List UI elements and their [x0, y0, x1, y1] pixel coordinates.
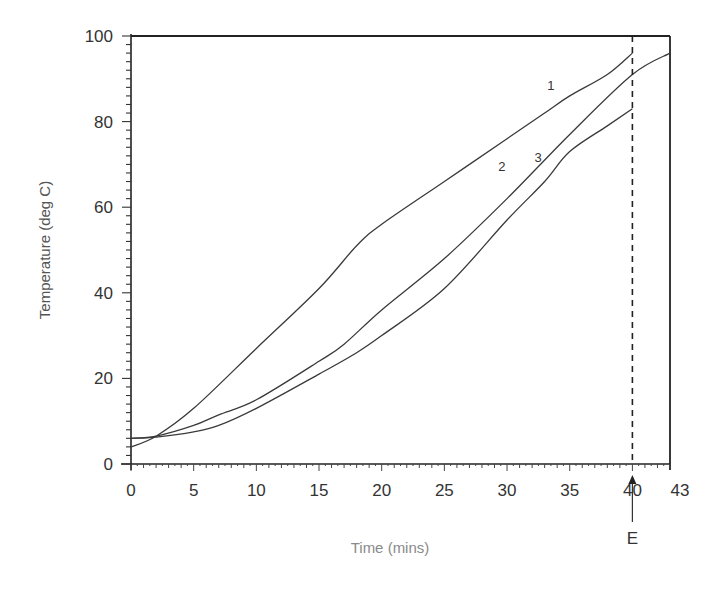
y-tick-label: 80 — [94, 113, 113, 132]
x-tick-label: 25 — [435, 481, 454, 500]
x-axis-tick-labels: 051015202530354043 — [126, 481, 689, 500]
x-tick-label: 15 — [310, 481, 329, 500]
x-tick-label: 43 — [671, 481, 690, 500]
y-tick-label: 20 — [94, 369, 113, 388]
y-tick-label: 100 — [85, 27, 113, 46]
arrow-up-icon — [628, 475, 636, 484]
x-tick-label: 0 — [126, 481, 135, 500]
series-2-line — [131, 53, 670, 438]
series-3-line — [131, 109, 632, 439]
series-3-label: 3 — [535, 150, 542, 165]
y-tick-label: 0 — [104, 455, 113, 474]
y-axis-tick-labels: 020406080100 — [85, 27, 113, 474]
plot-frame — [121, 34, 670, 470]
series-2-label: 2 — [498, 159, 505, 174]
y-tick-label: 40 — [94, 284, 113, 303]
y-axis-ticks — [122, 36, 131, 464]
y-axis-title: Temperature (deg C) — [36, 181, 53, 319]
x-axis-title: Time (mins) — [351, 539, 430, 556]
x-tick-label: 10 — [247, 481, 266, 500]
end-marker-label: E — [627, 529, 638, 548]
temperature-time-chart: 020406080100 051015202530354043 Temperat… — [0, 0, 728, 607]
x-tick-label: 30 — [498, 481, 517, 500]
x-tick-label: 35 — [560, 481, 579, 500]
series-1-line — [131, 53, 632, 447]
x-tick-label: 20 — [372, 481, 391, 500]
series-lines — [131, 53, 670, 447]
y-tick-label: 60 — [94, 198, 113, 217]
x-axis-ticks — [131, 464, 670, 471]
x-tick-label: 5 — [189, 481, 198, 500]
series-1-label: 1 — [547, 78, 554, 93]
